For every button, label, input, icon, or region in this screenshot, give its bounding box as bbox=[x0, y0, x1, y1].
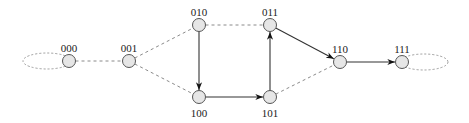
node-100: 100 bbox=[191, 91, 208, 120]
edge-001-010 bbox=[135, 28, 193, 58]
node-circle bbox=[193, 19, 206, 32]
node-label: 000 bbox=[61, 42, 78, 54]
node-label: 010 bbox=[191, 6, 208, 18]
edges bbox=[23, 25, 448, 97]
node-001: 001 bbox=[121, 42, 138, 68]
node-circle bbox=[123, 55, 136, 68]
node-circle bbox=[396, 56, 409, 69]
node-label: 110 bbox=[332, 43, 349, 55]
node-label: 001 bbox=[121, 42, 138, 54]
node-010: 010 bbox=[191, 6, 208, 32]
state-graph: 000001010011100101110111 bbox=[0, 0, 469, 123]
node-circle bbox=[264, 91, 277, 104]
node-011: 011 bbox=[262, 6, 278, 32]
edge-001-100 bbox=[135, 64, 193, 94]
node-000: 000 bbox=[61, 42, 78, 68]
node-circle bbox=[193, 91, 206, 104]
edge-011-110 bbox=[276, 28, 334, 59]
node-label: 011 bbox=[262, 6, 278, 18]
node-circle bbox=[264, 19, 277, 32]
node-label: 100 bbox=[191, 107, 208, 119]
node-label: 111 bbox=[394, 43, 410, 55]
node-110: 110 bbox=[332, 43, 349, 69]
node-label: 101 bbox=[262, 107, 279, 119]
node-circle bbox=[63, 55, 76, 68]
edge-101-110 bbox=[276, 65, 334, 94]
node-111: 111 bbox=[394, 43, 410, 69]
node-circle bbox=[334, 56, 347, 69]
node-101: 101 bbox=[262, 91, 279, 120]
